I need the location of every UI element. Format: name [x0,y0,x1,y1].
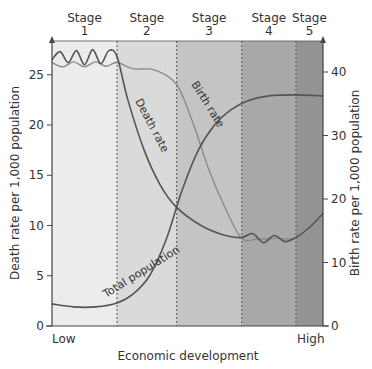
stage-band-1 [52,41,117,326]
x-tick-low: Low [52,332,76,346]
left-axis-ticks: 0510152025 [29,68,52,333]
stage-number-5: 5 [306,24,314,38]
right-tick-label: 20 [331,192,346,206]
left-tick-label: 5 [36,269,44,283]
stage-band-5 [296,41,323,326]
right-tick-label: 10 [331,256,346,270]
stage-number-2: 2 [143,24,151,38]
left-axis-arrow-icon [49,36,55,43]
stage-labels: Stage1Stage2Stage3Stage4Stage5 [67,11,327,38]
right-tick-label: 0 [331,319,339,333]
left-tick-label: 0 [36,319,44,333]
stage-label-5: Stage [292,11,327,25]
right-tick-label: 30 [331,129,346,143]
demographic-transition-chart: Stage1Stage2Stage3Stage4Stage5 051015202… [0,0,372,369]
left-tick-label: 15 [29,168,44,182]
left-tick-label: 20 [29,118,44,132]
right-tick-label: 40 [331,65,346,79]
right-axis-label: Birth rate per 1,000 population [348,90,362,277]
stage-label-3: Stage [192,11,227,25]
left-axis-label: Death rate per 1,000 population [8,86,22,280]
right-axis-arrow-icon [320,36,326,43]
right-axis-ticks: 010203040 [323,65,346,333]
stage-bands [52,41,323,326]
x-axis-label: Economic development [117,349,258,363]
x-tick-high: High [297,332,325,346]
stage-band-4 [242,41,296,326]
stage-number-3: 3 [205,24,213,38]
stage-label-2: Stage [130,11,165,25]
stage-label-1: Stage [67,11,102,25]
stage-number-1: 1 [81,24,89,38]
stage-label-4: Stage [251,11,286,25]
left-tick-label: 25 [29,68,44,82]
stage-number-4: 4 [265,24,273,38]
stage-band-3 [177,41,242,326]
left-tick-label: 10 [29,219,44,233]
